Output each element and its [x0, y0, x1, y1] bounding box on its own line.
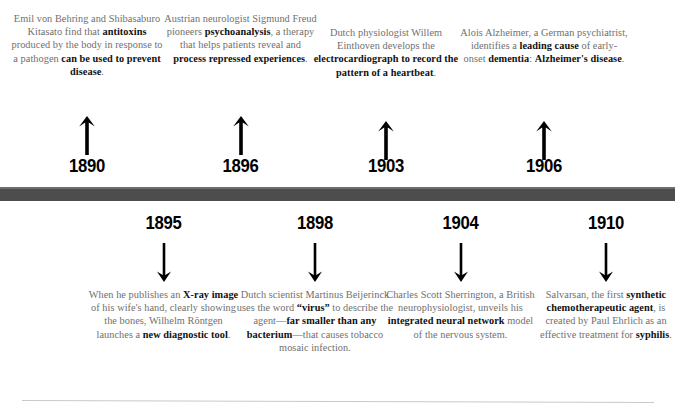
event-text-block: When he publishes an X-ray image of his …	[86, 288, 241, 341]
emphasis-text: integrated neural network	[388, 315, 505, 326]
body-text: .	[101, 66, 104, 77]
event-year-label: 1896	[172, 155, 308, 177]
bottom-divider-rule	[22, 400, 654, 403]
body-text: —that causes tobacco mosaic infection.	[279, 329, 383, 353]
arrow-down-icon-svg	[305, 243, 325, 283]
event-text-block: Alois Alzheimer, a German psychiatrist, …	[460, 26, 628, 66]
event-description: Alois Alzheimer, a German psychiatrist, …	[460, 26, 628, 66]
timeline-event-1903: Dutch physiologist Willem Einthoven deve…	[310, 0, 462, 418]
timeline-event-1898: Dutch scientist Martinus Beijerinck uses…	[236, 0, 394, 418]
emphasis-text: Alzheimer's disease	[535, 53, 622, 64]
timeline-event-1896: Austrian neurologist Sigmund Freud pione…	[163, 0, 318, 418]
arrow-down-icon	[236, 243, 394, 283]
emphasis-text: dementia	[488, 53, 529, 64]
body-text: , is created by Paul Ehrlich as an effec…	[540, 302, 667, 339]
arrow-up-icon-svg	[230, 115, 252, 155]
body-text: Dutch scientist Martinus Beijerinck uses…	[237, 289, 389, 313]
arrow-down-icon-svg	[154, 243, 174, 283]
arrow-up-icon	[8, 115, 166, 155]
emphasis-text: far smaller than any bacterium	[247, 315, 377, 339]
timeline-event-1904: Charles Scott Sherrington, a British neu…	[383, 0, 538, 418]
timeline-event-1906: Alois Alzheimer, a German psychiatrist, …	[460, 0, 628, 418]
timeline-event-1895: When he publishes an X-ray image of his …	[86, 0, 241, 418]
body-text: .	[433, 67, 436, 78]
timeline-event-1910: Salvarsan, the first synthetic chemother…	[536, 0, 675, 418]
body-text: Emil von Behring and Shibasaburo Kitasat…	[14, 13, 160, 37]
emphasis-text: psychoanalysis	[205, 26, 271, 37]
event-text-block: Dutch scientist Martinus Beijerinck uses…	[236, 288, 394, 354]
event-year-label: 1910	[544, 212, 667, 234]
emphasis-text: syphilis	[636, 329, 670, 340]
body-text: When he publishes an	[89, 289, 183, 300]
body-text: of his wife's hand, clearly showing the …	[91, 302, 236, 339]
body-text: model of the nervous system.	[414, 315, 534, 339]
emphasis-text: new diagnostic tool	[143, 329, 228, 340]
event-description: Emil von Behring and Shibasaburo Kitasat…	[8, 12, 166, 78]
event-year-label: 1906	[470, 155, 618, 177]
body-text: produced by the body in response to a pa…	[11, 39, 162, 63]
arrow-up-icon-svg	[533, 120, 555, 160]
arrow-up-icon	[460, 120, 628, 160]
body-text: Charles Scott Sherrington, a British neu…	[386, 289, 535, 313]
body-text: .	[305, 53, 308, 64]
event-year-label: 1898	[245, 212, 384, 234]
arrow-up-icon	[310, 120, 462, 160]
event-description: When he publishes an X-ray image of his …	[86, 288, 241, 341]
body-text: of early-onset	[464, 40, 618, 64]
arrow-down-icon	[86, 243, 241, 283]
event-description: Austrian neurologist Sigmund Freud pione…	[163, 12, 318, 65]
emphasis-text: leading cause	[520, 40, 579, 51]
body-text: .	[622, 53, 625, 64]
event-year-label: 1903	[319, 155, 453, 177]
event-description: Salvarsan, the first synthetic chemother…	[536, 288, 675, 341]
arrow-down-icon-svg	[596, 243, 616, 283]
body-text: Salvarsan, the first	[546, 289, 627, 300]
event-description: Dutch physiologist Willem Einthoven deve…	[310, 26, 462, 79]
body-text: , a therapy that helps patients reveal a…	[180, 26, 314, 50]
event-text-block: Austrian neurologist Sigmund Freud pione…	[163, 12, 318, 65]
event-description: Dutch scientist Martinus Beijerinck uses…	[236, 288, 394, 354]
emphasis-text: antitoxins	[103, 26, 147, 37]
arrow-down-icon	[383, 243, 538, 283]
arrow-down-icon	[536, 243, 675, 283]
event-text-block: Charles Scott Sherrington, a British neu…	[383, 288, 538, 341]
emphasis-text: electrocardiograph to record the pattern…	[314, 53, 458, 77]
body-text: Alois Alzheimer, a German psychiatrist, …	[460, 27, 627, 51]
body-text: .	[228, 329, 231, 340]
timeline-infographic: Emil von Behring and Shibasaburo Kitasat…	[0, 0, 675, 418]
emphasis-text: X-ray image	[183, 289, 238, 300]
emphasis-text: “virus”	[297, 302, 330, 313]
event-year-label: 1904	[392, 212, 528, 234]
body-text: to describe the agent—	[253, 302, 393, 326]
event-description: Charles Scott Sherrington, a British neu…	[383, 288, 538, 341]
event-text-block: Emil von Behring and Shibasaburo Kitasat…	[8, 12, 166, 78]
event-text-block: Dutch physiologist Willem Einthoven deve…	[310, 26, 462, 79]
event-year-label: 1890	[17, 155, 156, 177]
emphasis-text: can be used to prevent disease	[61, 53, 160, 77]
timeline-axis-bar	[0, 187, 675, 201]
emphasis-text: process repressed experiences	[173, 53, 305, 64]
emphasis-text: synthetic chemotherapeutic agent	[547, 289, 667, 313]
timeline-event-1890: Emil von Behring and Shibasaburo Kitasat…	[8, 0, 166, 418]
arrow-down-icon-svg	[451, 243, 471, 283]
body-text: :	[529, 53, 535, 64]
body-text: Dutch physiologist Willem Einthoven deve…	[330, 27, 442, 51]
event-year-label: 1895	[95, 212, 231, 234]
arrow-up-icon-svg	[375, 120, 397, 160]
arrow-up-icon-svg	[76, 115, 98, 155]
body-text: .	[669, 329, 672, 340]
event-text-block: Salvarsan, the first synthetic chemother…	[536, 288, 675, 341]
body-text: Austrian neurologist Sigmund Freud pione…	[164, 13, 316, 37]
arrow-up-icon	[163, 115, 318, 155]
